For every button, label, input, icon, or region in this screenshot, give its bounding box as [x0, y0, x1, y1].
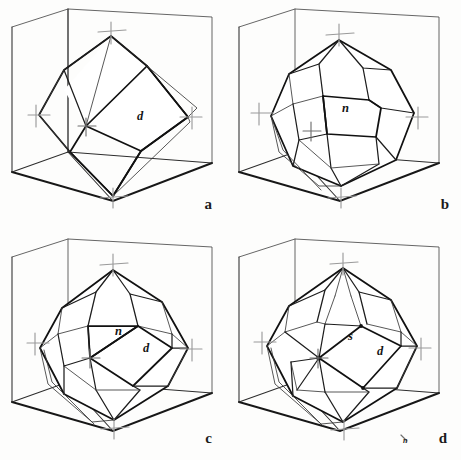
face-label-d-c: d [143, 341, 150, 355]
crystal-pyritohedron-b [271, 40, 414, 190]
panel-d: s d n d [231, 230, 461, 460]
face-label-n-c: n [115, 324, 122, 338]
vertex-node [361, 386, 365, 390]
face-label-s-d: s [347, 329, 353, 343]
face-label-d-d: d [377, 344, 384, 358]
crystal-combination-c [40, 270, 188, 424]
panel-c: n d c [0, 230, 230, 460]
axis-mark-horizontal-left [251, 103, 273, 125]
panel-b: n b [231, 0, 461, 230]
crystal-combination-d [267, 268, 417, 426]
panel-a: d a [0, 0, 230, 230]
edge-label-n-d: n [403, 436, 408, 445]
vertex-node [359, 324, 363, 328]
crystal-rhombic-dodecahedron-a [39, 36, 197, 196]
axis-mark-vertical-bottom [328, 188, 356, 208]
panel-label-b: b [441, 197, 449, 212]
face-label-d-a: d [137, 109, 144, 123]
figure-sheet: d a [0, 0, 461, 460]
face-label-n-b: n [342, 101, 349, 115]
panel-label-a: a [205, 197, 213, 212]
panel-label-c: c [205, 431, 212, 446]
panel-label-d: d [439, 431, 447, 446]
edge-callout-n-d: n [401, 435, 408, 445]
